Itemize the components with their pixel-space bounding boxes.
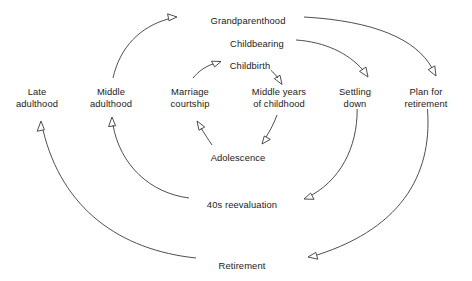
node-middle-years-of-childhood[interactable]: Middle years of childhood [252, 86, 306, 109]
edge-childbearing-to-settling-down [296, 40, 368, 77]
node-marriage-courtship-line-2: courtship [171, 98, 210, 110]
node-late-adulthood[interactable]: Late adulthood [16, 86, 58, 109]
node-marriage-courtship[interactable]: Marriage courtship [171, 86, 210, 109]
node-retirement[interactable]: Retirement [219, 260, 266, 272]
node-plan-for-retirement-line-2: retirement [404, 98, 447, 110]
node-middle-adulthood-line-2: adulthood [90, 98, 132, 110]
node-retirement-label: Retirement [219, 260, 266, 272]
node-grandparenthood-label: Grandparenthood [211, 15, 286, 27]
node-late-adulthood-line-1: Late [16, 86, 58, 98]
node-marriage-courtship-line-1: Marriage [171, 86, 210, 98]
node-40s-reevaluation-label: 40s reevaluation [207, 199, 277, 211]
edge-retirement-to-late-adulthood [37, 121, 196, 258]
edge-marriage-to-childbirth [193, 61, 221, 78]
node-settling-down-line-1: Settling [339, 86, 371, 98]
edge-adolescence-to-marriage [197, 121, 212, 145]
node-middle-years-line-1: Middle years [252, 86, 306, 98]
edge-grandparenthood-to-plan [304, 17, 436, 76]
node-adolescence-label: Adolescence [211, 152, 266, 164]
node-40s-reevaluation[interactable]: 40s reevaluation [207, 199, 277, 211]
edge-settling-down-to-40s [304, 103, 357, 199]
node-adolescence[interactable]: Adolescence [211, 152, 266, 164]
node-plan-for-retirement-line-1: Plan for [404, 86, 447, 98]
edge-plan-to-retirement [308, 104, 428, 259]
edge-middle-years-to-adolescence [262, 115, 277, 144]
node-settling-down[interactable]: Settling down [339, 86, 371, 109]
edge-40s-to-middle-adulthood [109, 117, 189, 198]
node-middle-adulthood-line-1: Middle [90, 86, 132, 98]
node-childbirth-label: Childbirth [230, 60, 271, 72]
node-childbearing-label: Childbearing [230, 38, 284, 50]
node-middle-adulthood[interactable]: Middle adulthood [90, 86, 132, 109]
node-childbirth[interactable]: Childbirth [230, 60, 271, 72]
node-middle-years-line-2: of childhood [252, 98, 306, 110]
life-cycle-diagram: Late adulthood Middle adulthood Marriage… [0, 0, 472, 281]
node-childbearing[interactable]: Childbearing [230, 38, 284, 50]
node-plan-for-retirement[interactable]: Plan for retirement [404, 86, 447, 109]
node-late-adulthood-line-2: adulthood [16, 98, 58, 110]
node-settling-down-line-2: down [339, 98, 371, 110]
node-grandparenthood[interactable]: Grandparenthood [211, 15, 286, 27]
edge-middle-adulthood-to-grandparenthood [113, 14, 177, 78]
